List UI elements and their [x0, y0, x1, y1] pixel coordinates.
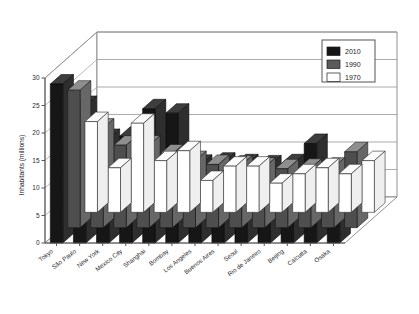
- bar-1970: [316, 158, 339, 212]
- y-tick-label: 15: [32, 157, 40, 164]
- bar-1970: [131, 114, 154, 213]
- legend-label-1990: 1990: [345, 61, 361, 68]
- x-tick-label: Tokyo: [37, 247, 54, 263]
- bar-1970: [339, 164, 362, 212]
- x-tick-label: Osaka: [313, 247, 332, 264]
- y-tick-label: 30: [32, 74, 40, 81]
- x-axis: TokyoSão PauloNew YorkMexico CityShangha…: [37, 243, 345, 277]
- bar-1970: [247, 157, 270, 213]
- x-tick-label: Beijing: [266, 247, 285, 264]
- legend-swatch-1990: [327, 60, 340, 69]
- bar-1970: [362, 151, 385, 212]
- x-tick-label: Calcutta: [286, 247, 309, 267]
- bar-1970: [108, 158, 131, 212]
- x-tick-label: Seoul: [222, 247, 239, 262]
- y-axis-title: Inhabitants (millions): [18, 135, 26, 195]
- bar-1970: [85, 112, 108, 212]
- y-tick-label: 0: [36, 239, 40, 246]
- bar-1970: [154, 151, 177, 212]
- y-axis-title-text: Inhabitants (millions): [18, 135, 26, 195]
- x-tick-label: São Paulo: [50, 247, 77, 270]
- y-tick-label: 20: [32, 129, 40, 136]
- y-axis: 051015202530: [32, 74, 45, 246]
- y-tick-label: 10: [32, 184, 40, 191]
- bar-1970: [293, 164, 316, 212]
- chart-legend[interactable]: 201019901970: [322, 40, 375, 82]
- y-tick-label: 5: [36, 212, 40, 219]
- legend-swatch-1970: [327, 73, 340, 82]
- bar-1970: [177, 141, 200, 212]
- chart-container: 051015202530 TokyoSão PauloNew YorkMexic…: [0, 0, 419, 314]
- bar-chart-3d: 051015202530 TokyoSão PauloNew YorkMexic…: [0, 0, 419, 314]
- y-tick-label: 25: [32, 102, 40, 109]
- x-tick-label: Shanghai: [122, 247, 147, 269]
- bar-1970: [223, 157, 246, 213]
- legend-label-1970: 1970: [345, 74, 361, 81]
- bar-1970: [200, 171, 223, 212]
- legend-label-2010: 2010: [345, 48, 361, 55]
- legend-swatch-2010: [327, 47, 340, 56]
